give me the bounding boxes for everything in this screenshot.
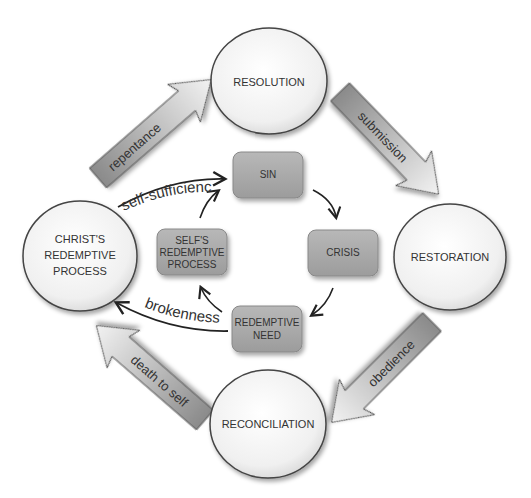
sin-node: SIN [233,152,303,198]
crisis-label: CRISIS [326,247,360,258]
self-to-sin-arrow [200,191,218,218]
christs-label-line3: PROCESS [53,265,107,277]
restoration-label: RESTORATION [411,251,489,263]
repentance-arrow: repentance [82,61,228,197]
obedience-arrow: obedience [314,304,450,440]
death-to-self-label: death to self [128,352,192,410]
resolution-node: RESOLUTION [211,28,327,134]
selfs-redemptive-process-node: SELF'S REDEMPTIVE PROCESS [157,229,227,275]
reconciliation-node: RECONCILIATION [210,370,326,478]
selfs-label-line2: REDEMPTIVE [159,247,224,258]
christs-label-line1: CHRIST'S [55,233,105,245]
redemptive-need-label-line2: NEED [253,330,281,341]
restoration-node: RESTORATION [394,204,506,310]
christs-label-line2: REDEMPTIVE [44,249,116,261]
redemptive-need-node: REDEMPTIVE NEED [232,306,302,352]
selfs-label-line1: SELF'S [175,235,209,246]
death-to-self-arrow: death to self [80,307,221,439]
sin-to-crisis-arrow [313,190,336,217]
crisis-node: CRISIS [308,230,378,276]
crisis-to-need-arrow [312,288,333,315]
christs-redemptive-process-node: CHRIST'S REDEMPTIVE PROCESS [23,201,137,311]
sin-label: SIN [260,169,277,180]
selfs-label-line3: PROCESS [168,259,217,270]
redemptive-need-label-line1: REDEMPTIVE [234,317,299,328]
reconciliation-label: RECONCILIATION [222,418,315,430]
brokenness-label: brokenness [143,294,220,326]
redemption-cycle-diagram: repentance submission obedience death to… [0,0,531,498]
submission-arrow: submission [322,75,457,212]
resolution-label: RESOLUTION [233,76,305,88]
